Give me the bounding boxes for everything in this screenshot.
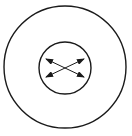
outer-circle [4, 6, 126, 128]
diagram-canvas [0, 0, 132, 136]
concentric-circles-diagram [0, 0, 132, 136]
